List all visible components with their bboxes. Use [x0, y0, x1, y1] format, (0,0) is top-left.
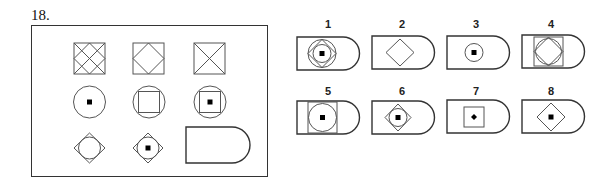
option-6-dot-icon [396, 115, 401, 120]
option-6[interactable] [372, 101, 434, 134]
option-7[interactable] [447, 100, 510, 133]
option-5-dot-icon [320, 115, 325, 120]
option-7-dot-icon [471, 114, 477, 120]
option-3[interactable] [447, 36, 510, 69]
option-1-dot-icon [320, 51, 325, 56]
option-4-diamond-icon [534, 37, 563, 66]
option-4[interactable] [522, 35, 584, 68]
option-3-dot-icon [472, 50, 477, 55]
options-figure [0, 0, 607, 181]
option-2-diamond-icon [386, 39, 414, 66]
option-4-square-icon [534, 37, 563, 66]
option-5[interactable] [297, 101, 359, 134]
option-4-circle-icon [536, 39, 562, 65]
option-8-dot-icon [549, 115, 554, 120]
option-1[interactable] [297, 37, 360, 70]
option-2[interactable] [372, 36, 435, 69]
